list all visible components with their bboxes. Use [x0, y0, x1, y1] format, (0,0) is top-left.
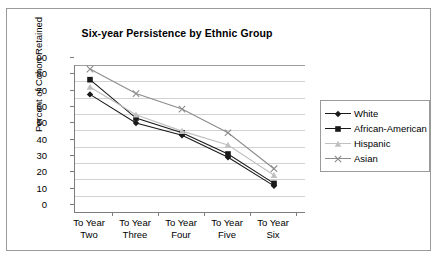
legend-label: White: [351, 108, 378, 120]
gridline: [75, 147, 305, 148]
x-axis-tick-line: To Year: [73, 217, 105, 228]
data-point-marker: [335, 110, 341, 116]
y-axis-tick-label: 70: [25, 86, 47, 95]
gridline: [75, 81, 305, 82]
y-axis-tick-mark: [70, 204, 74, 205]
data-point-marker: [335, 126, 341, 132]
y-axis-tick-label: 0: [25, 200, 47, 209]
x-axis-tick-mark: [250, 212, 251, 216]
chart-legend: WhiteAfrican-AmericanHispanicAsian: [320, 100, 430, 172]
gridline: [75, 163, 305, 164]
y-axis-tick-mark: [70, 188, 74, 189]
y-axis-tick-mark: [70, 122, 74, 123]
legend-marker-icon: [332, 138, 344, 150]
legend-item-hispanic[interactable]: Hispanic: [325, 136, 425, 151]
legend-key-icon: [325, 123, 351, 135]
y-axis-tick-label: 20: [25, 167, 47, 176]
gridline: [75, 130, 305, 131]
x-axis-tick-mark: [204, 212, 205, 216]
x-axis-tick-line: To Year: [257, 217, 289, 228]
legend-label: Hispanic: [351, 138, 390, 150]
y-axis-tick-label: 10: [25, 184, 47, 193]
gridline: [75, 65, 305, 66]
legend-key-icon: [325, 153, 351, 165]
y-axis-tick-mark: [70, 155, 74, 156]
y-axis-tick-label: 60: [25, 102, 47, 111]
legend-item-white[interactable]: White: [325, 106, 425, 121]
x-axis-tick-line: Six: [266, 229, 279, 240]
x-axis-tick-line: Four: [171, 229, 191, 240]
y-axis-tick-mark: [70, 73, 74, 74]
x-axis-tick-line: To Year: [119, 217, 151, 228]
y-axis-tick-mark: [70, 139, 74, 140]
x-axis-tick-line: Two: [80, 229, 97, 240]
legend-item-african-american[interactable]: African-American: [325, 121, 425, 136]
y-axis-tick-mark: [70, 90, 74, 91]
y-axis-tick-label: 40: [25, 135, 47, 144]
legend-label: Asian: [351, 153, 378, 165]
y-axis-tick-mark: [70, 171, 74, 172]
y-axis-tick-label: 90: [25, 53, 47, 62]
data-point-marker: [335, 155, 341, 161]
gridline: [75, 98, 305, 99]
y-axis-tick-mark: [70, 57, 74, 58]
gridline: [75, 196, 305, 197]
gridline: [75, 179, 305, 180]
chart-title: Six-year Persistence by Ethnic Group: [27, 27, 327, 39]
y-axis-tick-label: 30: [25, 151, 47, 160]
x-axis-tick-mark: [296, 212, 297, 216]
legend-label: African-American: [351, 123, 427, 135]
legend-key-icon: [325, 108, 351, 120]
x-axis-tick-mark: [158, 212, 159, 216]
x-axis-tick-line: Five: [218, 229, 236, 240]
legend-marker-icon: [332, 153, 344, 165]
y-axis-tick-label: 50: [25, 118, 47, 127]
x-axis-tick-line: To Year: [165, 217, 197, 228]
x-axis-tick-line: Three: [123, 229, 148, 240]
data-point-marker: [335, 140, 342, 146]
legend-marker-icon: [332, 108, 344, 120]
plot-area: [74, 65, 305, 213]
y-axis-tick-label: 80: [25, 69, 47, 78]
x-axis-tick-mark: [112, 212, 113, 216]
x-axis-tick-label: To YearSix: [245, 217, 301, 240]
y-axis-tick-mark: [70, 106, 74, 107]
legend-item-asian[interactable]: Asian: [325, 151, 425, 166]
legend-marker-icon: [332, 123, 344, 135]
x-axis-tick-line: To Year: [211, 217, 243, 228]
legend-key-icon: [325, 138, 351, 150]
gridline: [75, 114, 305, 115]
